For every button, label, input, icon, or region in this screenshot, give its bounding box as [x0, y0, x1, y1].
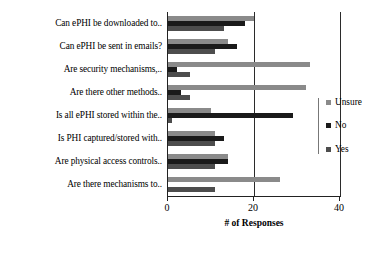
x-tick-20	[253, 196, 254, 201]
category-label: Is PHI captured/stored with..	[0, 127, 166, 150]
legend-item-unsure: Unsure	[326, 98, 362, 107]
legend-swatch-icon	[326, 100, 331, 105]
bar-no	[168, 113, 293, 118]
bar-groups	[168, 12, 341, 196]
category-label: Can ePHI be downloaded to..	[0, 12, 166, 35]
x-tick-label: 0	[165, 202, 170, 213]
bar-group	[168, 104, 341, 127]
legend-swatch-icon	[326, 123, 331, 128]
bar-group	[168, 81, 341, 104]
x-tick-label: 20	[248, 202, 258, 213]
bar-yes	[168, 118, 172, 123]
x-tick-labels: 0 20 40	[0, 202, 388, 216]
bar-unsure	[168, 177, 280, 182]
bar-yes	[168, 187, 215, 192]
legend-label: Yes	[335, 145, 349, 154]
bar-yes	[168, 49, 215, 54]
bar-yes	[168, 164, 215, 169]
bar-group	[168, 35, 341, 58]
x-tick-40	[339, 196, 340, 201]
bar-group	[168, 12, 341, 35]
plot-area	[167, 12, 341, 196]
category-label: Can ePHI be sent in emails?	[0, 35, 166, 58]
x-tick-label: 40	[334, 202, 344, 213]
bar-unsure	[168, 62, 310, 67]
category-label: Are there mechanisms to..	[0, 173, 166, 196]
bar-group	[168, 127, 341, 150]
bar-yes	[168, 95, 190, 100]
legend-label: Unsure	[335, 98, 362, 107]
bar-yes	[168, 72, 190, 77]
legend-item-yes: Yes	[326, 145, 362, 154]
bar-yes	[168, 26, 224, 31]
bar-yes	[168, 141, 215, 146]
category-label: Are security mechanisms,..	[0, 58, 166, 81]
legend-item-no: No	[326, 121, 362, 130]
bar-unsure	[168, 85, 306, 90]
category-label: Is all ePHI stored within the..	[0, 104, 166, 127]
legend-swatch-icon	[326, 147, 331, 152]
bar-group	[168, 173, 341, 196]
x-tick-0	[167, 196, 168, 201]
legend-label: No	[335, 121, 346, 130]
category-axis-labels: Can ePHI be downloaded to.. Can ePHI be …	[0, 12, 166, 196]
bar-group	[168, 58, 341, 81]
bar-chart: Can ePHI be downloaded to.. Can ePHI be …	[0, 0, 388, 259]
x-axis-title: # of Responses	[167, 218, 341, 228]
category-label: Are there other methods..	[0, 81, 166, 104]
category-label: Are physical access controls..	[0, 150, 166, 173]
bar-group	[168, 150, 341, 173]
chart-legend: Unsure No Yes	[318, 98, 362, 154]
